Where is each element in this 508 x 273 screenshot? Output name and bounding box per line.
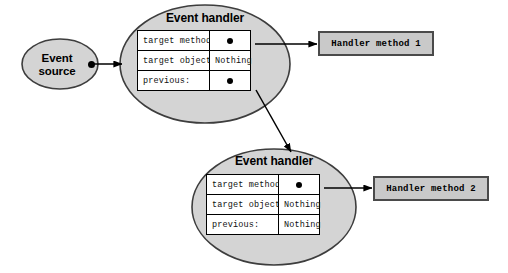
event-handler-chain-diagram: Event source Event handler target method… (0, 0, 508, 273)
table-row: target object: Nothing (138, 51, 251, 71)
handler-method-2-label: Handler method 2 (386, 184, 476, 194)
handler-2-row-2-value: Nothing (279, 215, 320, 235)
table-row: target method: (207, 175, 320, 195)
handler-2-row-0-key: target method: (207, 175, 279, 195)
handler-2-row-1-value: Nothing (279, 195, 320, 215)
source-pin-dot-icon (88, 61, 95, 68)
handler-2-row-0-value (279, 175, 320, 195)
handler-1-row-1-key: target object: (138, 51, 210, 71)
handler-1-row-2-key: previous: (138, 71, 210, 91)
handler-method-1-label: Handler method 1 (331, 39, 421, 49)
handler-2-title: Event handler (219, 155, 329, 168)
handler-1-row-0-value (210, 31, 251, 51)
event-source-label-line2: source (38, 65, 75, 77)
table-row: previous: Nothing (207, 215, 320, 235)
handler-1-title: Event handler (150, 12, 260, 25)
handler-method-1-box[interactable]: Handler method 1 (318, 31, 434, 56)
previous-pin-dot-icon (227, 78, 233, 84)
target-method-pin-dot-icon (227, 38, 233, 44)
handler-2-row-1-key: target object: (207, 195, 279, 215)
handler-1-row-1-value: Nothing (210, 51, 251, 71)
handler-2-row-2-key: previous: (207, 215, 279, 235)
handler-2-fields-table: target method: target object: Nothing pr… (206, 174, 320, 235)
event-source-label-line1: Event (42, 52, 73, 64)
handler-method-2-box[interactable]: Handler method 2 (373, 176, 489, 201)
table-row: target object: Nothing (207, 195, 320, 215)
handler-1-row-0-key: target method: (138, 31, 210, 51)
target-method-pin-dot-icon (296, 182, 302, 188)
handler-1-fields-table: target method: target object: Nothing pr… (137, 30, 251, 91)
handler-1-row-2-value (210, 71, 251, 91)
table-row: target method: (138, 31, 251, 51)
table-row: previous: (138, 71, 251, 91)
event-source-label: Event source (26, 52, 88, 78)
